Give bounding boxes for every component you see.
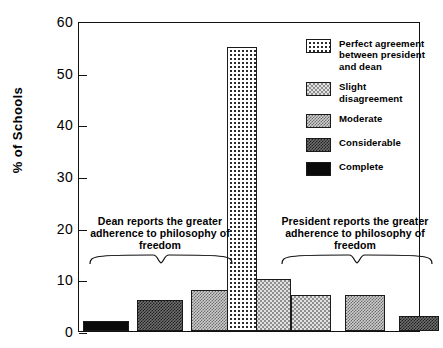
annotation-brace [281,253,433,267]
legend-item: Complete [306,161,432,176]
chart-root: % of Schools 0102030405060 Dean reports … [0,0,443,348]
bar [291,295,331,331]
y-tick-label: 40 [57,117,73,133]
bar [83,321,129,331]
y-tick-label: 60 [57,14,73,30]
y-tick-mark [79,178,87,179]
bar [137,300,183,331]
bar [345,295,385,331]
y-tick-mark [79,75,87,76]
legend-item: Perfect agreement between president and … [306,38,432,72]
legend-swatch [306,82,331,96]
y-tick-label: 10 [57,272,73,288]
legend-item: Slight disagreement [306,81,432,104]
y-tick-label: 20 [57,221,73,237]
group-annotation: Dean reports the greater adherence to ph… [85,215,235,252]
legend-label: Moderate [339,113,382,124]
bar [227,47,257,331]
bar [399,316,439,332]
legend-label: Perfect agreement between president and … [339,38,425,72]
legend-item: Moderate [306,113,432,128]
legend-swatch [306,162,331,176]
y-tick-mark [79,126,87,127]
y-tick-label: 0 [65,324,73,340]
y-tick-label: 30 [57,169,73,185]
legend-label: Considerable [339,137,401,148]
legend-swatch [306,114,331,128]
annotation-brace [89,253,233,267]
chart-legend: Perfect agreement between president and … [306,38,432,185]
y-axis-label: % of Schools [10,80,26,180]
y-tick-mark [79,333,87,334]
legend-label: Complete [339,161,384,172]
y-tick-mark [79,281,87,282]
y-tick-label: 50 [57,66,73,82]
legend-label: Slight disagreement [339,81,432,104]
legend-item: Considerable [306,137,432,152]
legend-swatch [306,138,331,152]
group-annotation: President reports the greater adherence … [275,215,435,252]
legend-swatch [306,39,331,53]
